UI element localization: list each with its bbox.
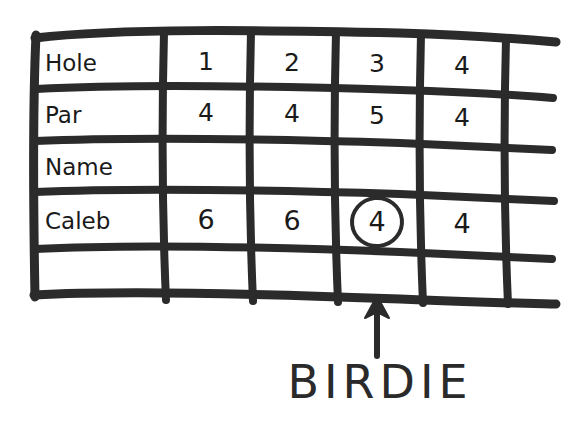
hole-value-1: 1	[198, 47, 214, 76]
grid-row-line-4	[35, 246, 552, 259]
grid-row-line-3	[35, 190, 554, 201]
caleb-score-hole-1: 6	[197, 204, 214, 235]
birdie-label: BIRDIE	[287, 355, 472, 409]
caleb-score-hole-4: 4	[453, 208, 470, 239]
hole-value-2: 2	[284, 48, 300, 77]
hole-value-4: 4	[454, 51, 470, 80]
grid-col-line-2	[250, 31, 253, 301]
scorecard-drawing: Hole Par Name Caleb 1 2 3 4 4 4 5 4 6 6 …	[0, 0, 577, 444]
grid-border-left	[34, 35, 36, 297]
scorecard-sketch-canvas: Hole Par Name Caleb 1 2 3 4 4 4 5 4 6 6 …	[0, 0, 577, 444]
grid-row-line-1	[36, 86, 553, 98]
par-value-1: 4	[198, 98, 214, 127]
caleb-score-hole-2: 6	[283, 205, 300, 236]
grid-col-line-1	[163, 32, 166, 300]
hole-value-3: 3	[369, 49, 385, 78]
row-label-name: Name	[45, 154, 113, 180]
grid-col-line-3	[335, 32, 338, 302]
par-value-3: 5	[369, 101, 385, 130]
grid-col-line-4	[420, 34, 423, 303]
grid-row-line-2	[35, 139, 552, 150]
grid-border-bottom	[34, 293, 556, 304]
caleb-score-hole-3: 4	[368, 206, 385, 237]
row-label-par: Par	[45, 102, 82, 128]
grid-col-line-5	[505, 38, 508, 304]
row-label-hole: Hole	[45, 50, 97, 76]
birdie-annotation: BIRDIE	[287, 296, 472, 409]
grid-border-top	[35, 31, 556, 42]
par-value-2: 4	[284, 99, 300, 128]
row-label-caleb: Caleb	[45, 208, 110, 234]
par-value-4: 4	[454, 103, 470, 132]
